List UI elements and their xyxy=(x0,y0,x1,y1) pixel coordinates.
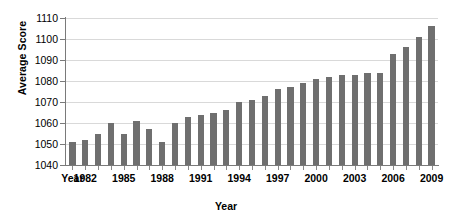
x-axis-tick-mark xyxy=(162,166,163,170)
x-axis-tick-mark xyxy=(380,166,381,170)
x-axis-tick-label: 1988 xyxy=(151,172,174,184)
bar xyxy=(82,140,88,165)
x-axis-tick-label: 1985 xyxy=(112,172,135,184)
x-axis-tick-label: 2000 xyxy=(304,172,327,184)
x-axis-tick-mark xyxy=(278,166,279,170)
bar xyxy=(416,37,422,165)
y-axis-tick-mark xyxy=(60,102,65,103)
y-axis-tick-label: 1110 xyxy=(0,12,58,24)
bar xyxy=(339,75,345,165)
bar xyxy=(428,26,434,165)
x-axis-tick-mark xyxy=(239,166,240,170)
x-axis-tick-mark xyxy=(188,166,189,170)
bar xyxy=(198,115,204,165)
x-axis-tick-mark xyxy=(214,166,215,170)
x-axis-tick-mark xyxy=(98,166,99,170)
bar xyxy=(390,54,396,165)
bar xyxy=(249,100,255,165)
bar xyxy=(172,123,178,165)
bar xyxy=(352,75,358,165)
bar xyxy=(313,79,319,165)
x-axis-tick-mark xyxy=(85,166,86,170)
x-axis-tick-mark xyxy=(252,166,253,170)
x-axis-tick-mark xyxy=(316,166,317,170)
bar xyxy=(300,83,306,165)
x-axis-tick-mark xyxy=(342,166,343,170)
x-axis-tick-mark xyxy=(367,166,368,170)
x-axis-tick-mark xyxy=(137,166,138,170)
x-axis-tick-mark xyxy=(329,166,330,170)
x-axis-tick-mark xyxy=(265,166,266,170)
x-axis-tick-mark xyxy=(290,166,291,170)
x-axis-tick-label: 2009 xyxy=(420,172,443,184)
y-axis-tick-label: 1040 xyxy=(0,159,58,171)
y-axis-tick-label: 1090 xyxy=(0,54,58,66)
x-axis-title: Year xyxy=(0,200,452,212)
x-axis-tick-mark xyxy=(175,166,176,170)
x-axis-tick-label: 2006 xyxy=(381,172,404,184)
y-axis-tick-mark xyxy=(60,18,65,19)
bar xyxy=(262,96,268,165)
bar xyxy=(121,134,127,166)
bar xyxy=(69,142,75,165)
x-axis-tick-mark xyxy=(72,166,73,170)
bar xyxy=(326,77,332,165)
x-axis-tick-label: 1997 xyxy=(266,172,289,184)
x-axis-tick-mark xyxy=(111,166,112,170)
bar xyxy=(159,142,165,165)
x-axis-tick-mark xyxy=(303,166,304,170)
y-axis-tick-labels: 10401050106010701080109011001110 xyxy=(0,0,58,222)
y-axis-tick-mark xyxy=(60,81,65,82)
x-axis-tick-mark xyxy=(226,166,227,170)
x-axis-tick-mark xyxy=(355,166,356,170)
y-axis-tick-label: 1050 xyxy=(0,138,58,150)
bar xyxy=(95,134,101,166)
y-axis-tick-mark xyxy=(60,39,65,40)
x-axis-tick-mark xyxy=(124,166,125,170)
y-axis-tick-mark xyxy=(60,123,65,124)
bar xyxy=(287,87,293,165)
x-axis-tick-label: 1982 xyxy=(74,172,97,184)
y-axis-tick-label: 1100 xyxy=(0,33,58,45)
bar xyxy=(364,73,370,165)
y-axis-tick-label: 1070 xyxy=(0,96,58,108)
y-axis-tick-mark xyxy=(60,144,65,145)
bar xyxy=(377,73,383,165)
bar-chart: Average Score 10401050106010701080109011… xyxy=(0,0,452,222)
bar xyxy=(223,110,229,165)
bars-layer xyxy=(66,18,438,165)
bar xyxy=(146,129,152,165)
bar xyxy=(133,121,139,165)
bar xyxy=(185,117,191,165)
x-axis-tick-mark xyxy=(393,166,394,170)
y-axis-tick-mark xyxy=(60,60,65,61)
x-axis-tick-mark xyxy=(201,166,202,170)
bar xyxy=(108,123,114,165)
bar xyxy=(236,102,242,165)
x-axis-tick-mark xyxy=(406,166,407,170)
bar xyxy=(403,47,409,165)
x-axis-tick-label: 1991 xyxy=(189,172,212,184)
x-axis-tick-mark xyxy=(419,166,420,170)
y-axis-tick-label: 1080 xyxy=(0,75,58,87)
x-axis-tick-label: 1994 xyxy=(227,172,250,184)
bar xyxy=(275,89,281,165)
bar xyxy=(210,113,216,166)
x-axis-tick-label: 2003 xyxy=(343,172,366,184)
y-axis-tick-mark xyxy=(60,165,65,166)
x-axis-tick-mark xyxy=(432,166,433,170)
y-axis-tick-label: 1060 xyxy=(0,117,58,129)
x-axis-tick-mark xyxy=(149,166,150,170)
